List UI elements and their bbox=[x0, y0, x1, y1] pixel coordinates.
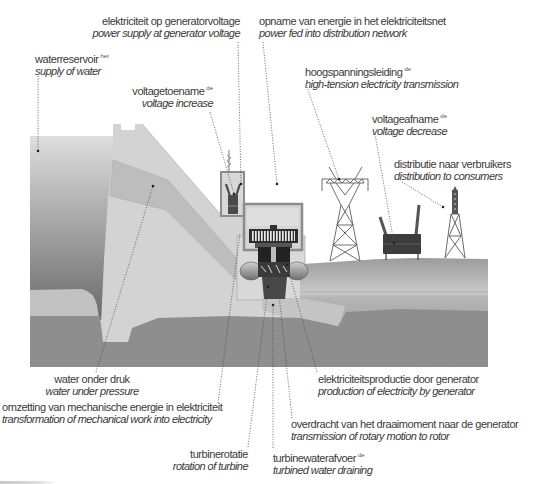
dot-voltage-decrease bbox=[393, 242, 396, 245]
dutch-line: hoogspanningsleidingde bbox=[305, 64, 458, 79]
dot-generator-voltage bbox=[240, 183, 243, 186]
english-text: distribution to consumers bbox=[394, 171, 511, 183]
pylon-peak-right bbox=[355, 167, 362, 179]
pylon-upper-right bbox=[349, 183, 360, 205]
english-text: voltage decrease bbox=[372, 126, 447, 138]
generator-house bbox=[244, 204, 302, 250]
pylon-bracing bbox=[330, 205, 360, 261]
dot-distribution bbox=[442, 206, 445, 209]
dutch-text: turbinerotatie bbox=[173, 449, 248, 461]
tower-lattice bbox=[445, 214, 465, 258]
article-superscript: het bbox=[100, 53, 108, 59]
dutch-text: distributie naar verbruikers bbox=[394, 159, 511, 171]
dot-high-tension bbox=[338, 178, 341, 181]
english-text: rotation of turbine bbox=[173, 461, 248, 473]
pylon-peak-left bbox=[329, 167, 336, 179]
label-generator-voltage: elektriciteit op generatorvoltage power … bbox=[92, 16, 240, 39]
dot-voltage-increase bbox=[233, 193, 236, 196]
dot-electricity-production bbox=[286, 264, 289, 267]
dutch-text: overdracht van het draaimoment naar de g… bbox=[291, 419, 518, 431]
dutch-line: turbinewaterafvoerde bbox=[273, 450, 372, 465]
dutch-text: elektriciteit op generatorvoltage bbox=[92, 16, 240, 28]
label-waterreservoir: waterreservoirhet supply of water bbox=[35, 51, 109, 77]
article-superscript: de bbox=[440, 113, 447, 119]
dutch-text: opname van energie in het elektriciteits… bbox=[259, 16, 446, 28]
english-text: turbined water draining bbox=[273, 465, 372, 477]
english-text: power fed into distribution network bbox=[259, 28, 446, 40]
transformer-core bbox=[228, 195, 238, 214]
dutch-text: turbinewaterafvoer bbox=[273, 452, 356, 464]
english-text: water under pressure bbox=[37, 386, 147, 398]
article-superscript: de bbox=[404, 66, 411, 72]
bushing-right bbox=[416, 205, 419, 235]
english-text: voltage increase bbox=[132, 98, 213, 110]
english-text: power supply at generator voltage bbox=[92, 28, 240, 40]
english-text: transmission of rotary motion to rotor bbox=[291, 431, 518, 443]
label-distribution: distributie naar verbruikers distributio… bbox=[394, 159, 511, 182]
generator-stator-windings bbox=[252, 231, 295, 241]
dutch-line: waterreservoirhet bbox=[35, 51, 109, 66]
label-turbine-rotation: turbinerotatie rotation of turbine bbox=[173, 449, 248, 472]
leader-generator-voltage bbox=[238, 42, 241, 184]
leader-power-fed bbox=[263, 42, 277, 184]
label-voltage-increase: voltagetoenamede voltage increase bbox=[132, 83, 213, 109]
dot-water-pressure bbox=[152, 185, 155, 188]
dutch-line: voltagetoenamede bbox=[132, 83, 213, 98]
pylon-upper-left bbox=[330, 183, 341, 205]
dot-turbine-rotation bbox=[267, 286, 270, 289]
dutch-text: elektriciteitsproductie door generator bbox=[318, 374, 479, 386]
dot-waterreservoir bbox=[37, 150, 40, 153]
bushing-left bbox=[380, 217, 386, 235]
pylon-leg-right bbox=[349, 205, 360, 261]
generator-hall-inner bbox=[247, 208, 299, 226]
hydroelectric-diagram: elektriciteit op generatorvoltage power … bbox=[0, 0, 533, 484]
dot-water-draining bbox=[272, 304, 275, 307]
pylon-v-brace bbox=[336, 183, 354, 195]
tower-cap bbox=[453, 186, 457, 190]
transmission-pylon bbox=[322, 167, 368, 261]
label-rotary-transmission: overdracht van het draaimoment naar de g… bbox=[291, 419, 518, 442]
step-down-transformer bbox=[380, 205, 421, 260]
leader-high-tension bbox=[307, 87, 339, 179]
article-superscript: de bbox=[206, 85, 213, 91]
label-water-draining: turbinewaterafvoerde turbined water drai… bbox=[273, 450, 372, 476]
english-text: transformation of mechanical work into e… bbox=[2, 414, 222, 426]
label-electricity-production: elektriciteitsproductie door generator p… bbox=[318, 374, 479, 397]
pylon-crossarm-lattice bbox=[326, 179, 364, 183]
dutch-text: omzetting van mechanische energie in ele… bbox=[2, 402, 222, 414]
dutch-text: voltagetoename bbox=[132, 85, 204, 97]
dutch-text: waterreservoir bbox=[35, 53, 98, 65]
reservoir-bed-mound bbox=[30, 289, 99, 318]
dutch-text: voltageafname bbox=[372, 113, 438, 125]
pylon-leg-left bbox=[330, 205, 341, 261]
dot-power-fed bbox=[276, 183, 279, 186]
leader-distribution bbox=[402, 182, 443, 207]
dutch-line: voltageafnamede bbox=[372, 111, 447, 126]
label-high-tension: hoogspanningsleidingde high-tension elec… bbox=[305, 64, 458, 90]
turbine-shaft bbox=[271, 247, 276, 263]
label-voltage-decrease: voltageafnamede voltage decrease bbox=[372, 111, 447, 137]
english-text: supply of water bbox=[35, 66, 109, 78]
dutch-text: water onder druk bbox=[37, 374, 147, 386]
draft-tube bbox=[262, 277, 287, 299]
dutch-text: hoogspanningsleiding bbox=[305, 66, 402, 78]
label-power-fed: opname van energie in het elektriciteits… bbox=[259, 16, 446, 39]
article-superscript: de bbox=[358, 452, 365, 458]
distribution-tower bbox=[445, 186, 465, 258]
label-transformation: omzetting van mechanische energie in ele… bbox=[2, 402, 222, 425]
english-text: high-tension electricity transmission bbox=[305, 79, 458, 91]
english-text: production of electricity by generator bbox=[318, 386, 479, 398]
label-water-pressure: water onder druk water under pressure bbox=[37, 374, 147, 397]
